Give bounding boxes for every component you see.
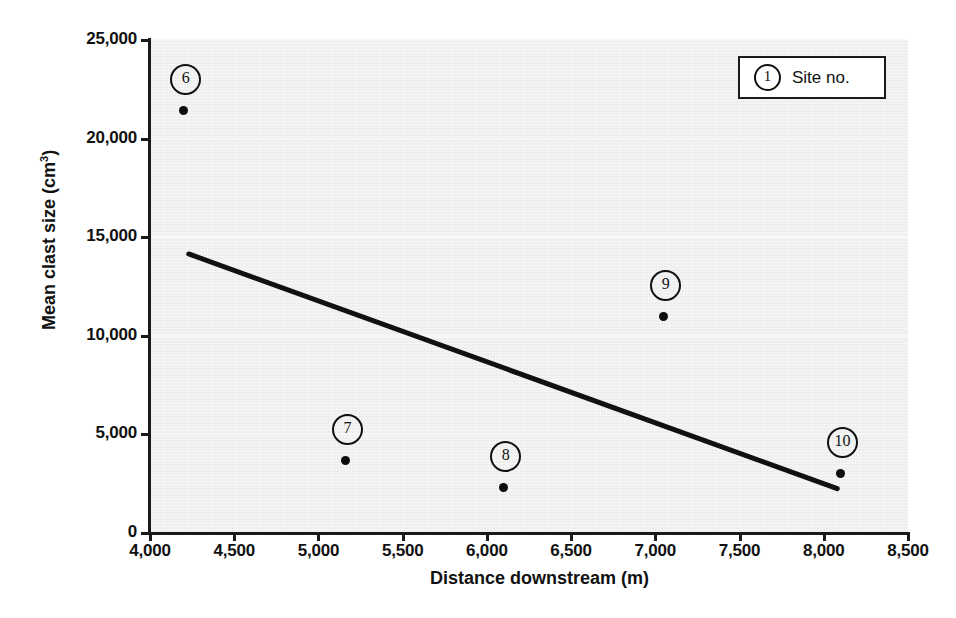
y-axis-tick [141,532,149,535]
legend: 1 Site no. [738,56,886,99]
x-axis-tick-label: 4,500 [189,541,279,561]
x-axis-tick-label: 4,000 [105,541,195,561]
y-axis-tick-label: 25,000 [37,29,137,49]
legend-marker-icon: 1 [754,64,781,91]
x-axis-tick-label: 7,000 [610,541,700,561]
x-axis-tick [149,533,152,541]
y-axis-title-superscript: 3 [38,156,50,162]
x-axis-tick-label: 5,500 [358,541,448,561]
y-axis-tick [141,39,149,42]
y-axis-line [148,38,151,535]
y-axis-tick [141,433,149,436]
plot-area: 678910 [150,40,908,533]
y-axis-tick [141,138,149,141]
y-axis-tick [141,236,149,239]
legend-label: Site no. [792,68,850,88]
x-axis-tick-label: 6,000 [442,541,532,561]
x-axis-tick-label: 7,500 [695,541,785,561]
chart-figure: 678910 05,00010,00015,00020,00025,000 4,… [0,0,956,618]
data-point-label: 7 [332,414,363,445]
y-axis-title: Mean clast size (cm3) [38,150,60,330]
x-axis-tick [654,533,657,541]
y-axis-tick-label: 0 [37,522,137,542]
x-axis-tick [907,533,910,541]
trend-line [150,40,908,533]
data-point-label: 9 [650,270,681,301]
x-axis-tick-label: 8,000 [779,541,869,561]
x-axis-tick [402,533,405,541]
y-axis-tick-label: 5,000 [37,423,137,443]
x-axis-tick-label: 6,500 [526,541,616,561]
x-axis-tick-label: 8,500 [863,541,953,561]
y-axis-tick [141,335,149,338]
x-axis-tick [486,533,489,541]
data-point-marker [659,312,668,321]
x-axis-tick [317,533,320,541]
y-axis-tick-label: 20,000 [37,128,137,148]
y-axis-title-text: Mean clast size (cm [39,162,59,330]
x-axis-tick [233,533,236,541]
x-axis-tick [823,533,826,541]
x-axis-line [148,532,910,535]
x-axis-tick-label: 5,000 [273,541,363,561]
y-axis-title-close: ) [39,150,59,156]
x-axis-tick [739,533,742,541]
x-axis-tick [570,533,573,541]
x-axis-title: Distance downstream (m) [430,568,649,589]
data-point-marker [341,456,350,465]
